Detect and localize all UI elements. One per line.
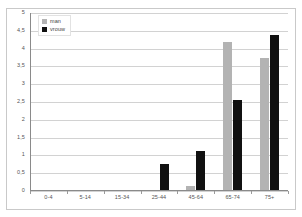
- x-axis-labels: 0-45-1415-3425-4445-6465-7475+: [30, 195, 288, 207]
- plot-area: [30, 13, 288, 191]
- x-axis-category-label: 65-74: [225, 195, 240, 201]
- y-axis-tick-label: 1: [22, 153, 25, 159]
- x-axis-category-label: 15-34: [115, 195, 130, 201]
- y-axis-tick-label: 4,5: [17, 28, 25, 34]
- legend-swatch-icon: [42, 27, 47, 32]
- bars-layer: [30, 13, 288, 191]
- x-axis-tick: [288, 191, 289, 194]
- x-axis-tick: [214, 191, 215, 194]
- x-axis-tick: [251, 191, 252, 194]
- legend-label: vrouw: [50, 27, 65, 33]
- x-axis-category-label: 45-64: [189, 195, 204, 201]
- bar-vrouw-25-44: [160, 164, 169, 190]
- x-axis-tick: [30, 191, 31, 194]
- y-axis-tick-label: 4: [22, 46, 25, 52]
- legend-item-man: man: [42, 18, 65, 25]
- bar-man-65-74: [223, 42, 232, 190]
- y-axis-tick-label: 0,5: [17, 170, 25, 176]
- y-axis-tick-label: 1,5: [17, 135, 25, 141]
- x-axis-tick: [177, 191, 178, 194]
- legend-swatch-icon: [42, 19, 47, 24]
- bar-vrouw-65-74: [233, 100, 242, 190]
- x-axis-category-label: 5-14: [80, 195, 91, 201]
- y-axis-labels: 00,511,522,533,544,55: [0, 13, 28, 191]
- legend-item-vrouw: vrouw: [42, 26, 65, 33]
- bar-man-45-64: [186, 186, 195, 190]
- x-axis-category-label: 0-4: [44, 195, 52, 201]
- y-axis-tick-label: 3,5: [17, 64, 25, 70]
- y-axis-tick-label: 2: [22, 117, 25, 123]
- y-axis-tick-label: 3: [22, 81, 25, 87]
- y-axis-tick-label: 0: [22, 188, 25, 194]
- x-axis-tick: [104, 191, 105, 194]
- x-axis-tick: [141, 191, 142, 194]
- bar-vrouw-75+: [270, 35, 279, 190]
- bar-vrouw-45-64: [196, 151, 205, 190]
- x-axis-tick: [67, 191, 68, 194]
- x-axis-category-label: 25-44: [152, 195, 167, 201]
- x-axis-category-label: 75+: [265, 195, 275, 201]
- bar-chart: 00,511,522,533,544,55 0-45-1415-3425-444…: [0, 0, 302, 217]
- chart-legend: manvrouw: [38, 15, 71, 36]
- legend-label: man: [50, 19, 61, 25]
- y-axis-tick-label: 5: [22, 10, 25, 16]
- bar-man-75+: [260, 58, 269, 190]
- y-axis-tick-label: 2,5: [17, 99, 25, 105]
